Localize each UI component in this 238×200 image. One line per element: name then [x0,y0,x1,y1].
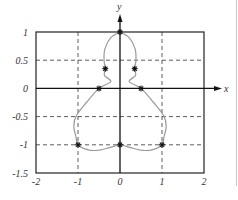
x-tick-label: 0 [118,176,123,187]
y-axis-arrow-icon [118,14,123,22]
asterisk-marker-icon [117,142,123,148]
y-tick-label: 0 [23,83,28,94]
asterisk-marker-icon [138,85,144,91]
y-tick-label: -1.5 [12,168,28,179]
x-axis-arrow-icon [214,86,222,91]
asterisk-marker-icon [117,29,123,35]
y-tick-label: -1 [20,139,28,150]
y-axis-label: y [116,1,122,12]
asterisk-marker-icon [132,66,138,72]
x-tick-label: 1 [160,176,165,187]
asterisk-marker-icon [96,85,102,91]
x-tick-labels: -2-1012 [32,176,207,187]
x-axis-label: x [223,83,229,94]
x-tick-label: -1 [74,176,82,187]
asterisk-marker-icon [102,66,108,72]
y-tick-label: -0.5 [12,111,28,122]
x-tick-label: -2 [32,176,40,187]
y-tick-label: 1 [23,27,28,38]
y-tick-labels: 10.50-0.5-1-1.5 [12,27,28,179]
x-tick-label: 2 [202,176,207,187]
chart-plot: -2-1012 10.50-0.5-1-1.5 x y [0,0,238,200]
y-tick-label: 0.5 [16,55,29,66]
